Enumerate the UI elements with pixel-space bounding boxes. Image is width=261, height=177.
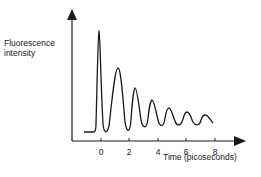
- y-axis-label: Fluorescence intensity: [4, 38, 55, 58]
- fluorescence-curve: [84, 31, 213, 132]
- y-axis-label-line1: Fluorescence: [4, 38, 55, 48]
- x-axis-label: Time (picoseconds): [163, 152, 237, 162]
- x-tick-label: 0: [94, 147, 108, 157]
- y-axis-arrow-icon: [67, 9, 77, 20]
- x-tick-label: 2: [122, 147, 136, 157]
- y-axis-label-line2: intensity: [4, 48, 55, 58]
- x-axis-arrow-icon: [234, 136, 246, 146]
